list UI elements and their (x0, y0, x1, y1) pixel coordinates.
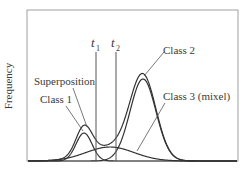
t2-label: t (111, 35, 115, 50)
class1-label: Class 1 (40, 93, 72, 105)
class3-label: Class 3 (mixel) (163, 90, 231, 103)
class-1-curve (28, 133, 237, 161)
t1-label: t (91, 35, 95, 50)
t1-subscript: 1 (96, 44, 100, 53)
superposition-label: Superposition (34, 75, 96, 87)
t2-subscript: 2 (116, 44, 120, 53)
frequency-distribution-chart: Frequency t 1 t 2 Superposition Class 1 … (0, 0, 245, 172)
class2-label: Class 2 (163, 44, 195, 56)
class2-leader-line (144, 52, 164, 76)
y-axis-label: Frequency (2, 62, 14, 109)
superposition-leader-line (73, 88, 87, 127)
